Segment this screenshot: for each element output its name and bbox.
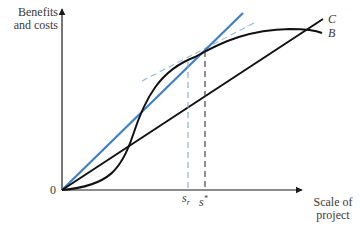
s-star-label: s* bbox=[199, 192, 208, 209]
s-r-subscript: r bbox=[187, 198, 190, 207]
s-star-superscript: * bbox=[204, 194, 208, 203]
x-axis-label: Scale of project bbox=[305, 196, 361, 222]
cost-curve-label: C bbox=[328, 13, 336, 26]
y-axis-label: Benefits and costs bbox=[4, 6, 58, 32]
y-axis-label-line2: and costs bbox=[4, 19, 58, 32]
cost-line-c bbox=[62, 19, 323, 190]
benefit-curve-b bbox=[62, 29, 322, 190]
origin-label: 0 bbox=[50, 184, 56, 197]
ray-from-origin bbox=[62, 13, 243, 190]
s-r-label: sr bbox=[182, 192, 190, 209]
tangent-line-at-s-star bbox=[142, 22, 256, 81]
x-axis-label-line2: project bbox=[305, 209, 361, 222]
benefit-curve-label: B bbox=[328, 27, 335, 40]
